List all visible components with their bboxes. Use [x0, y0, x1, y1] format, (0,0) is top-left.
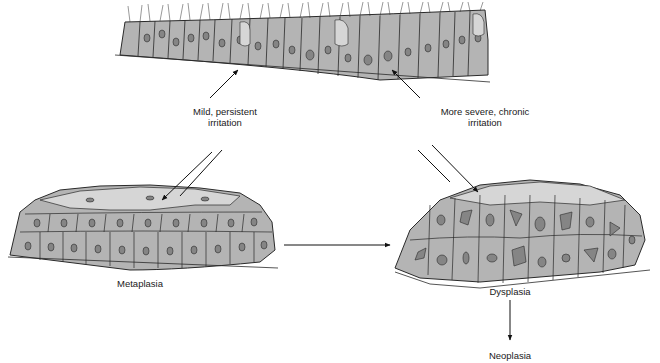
- dysplasia-illustration: [395, 180, 650, 288]
- edge-label-severe-line2: irritation: [420, 117, 550, 128]
- edge-label-severe-line1: More severe, chronic: [420, 106, 550, 117]
- metaplasia-illustration: [8, 185, 278, 270]
- node-label-neoplasia: Neoplasia: [470, 350, 550, 361]
- normal-epithelium-illustration: [115, 2, 490, 82]
- edge-label-severe-irritation: More severe, chronic irritation: [420, 106, 550, 128]
- diagram-canvas: [0, 0, 660, 363]
- edge-label-mild-irritation: Mild, persistent irritation: [170, 106, 280, 128]
- edge-label-mild-line2: irritation: [170, 117, 280, 128]
- edge-label-mild-line1: Mild, persistent: [170, 106, 280, 117]
- node-label-dysplasia: Dysplasia: [470, 286, 550, 297]
- node-label-metaplasia: Metaplasia: [100, 278, 180, 289]
